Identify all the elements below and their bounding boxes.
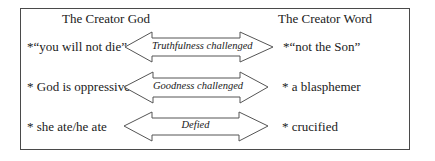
arrow-label-goodness: Goodness challenged [153,80,240,91]
arrow-label-defied: Defied [152,119,239,130]
arrow-label-truthfulness: Truthfulness challenged [152,40,240,51]
